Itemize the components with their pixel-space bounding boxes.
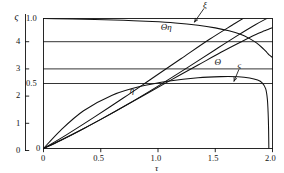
curves-layer <box>44 4 273 148</box>
curve-Θ <box>44 28 273 149</box>
x-axis-ticklabel: 1.5 <box>208 154 219 163</box>
chart-canvas <box>0 0 284 173</box>
inner-axis-ticklabel: 1.0 <box>26 14 37 23</box>
inner-axis-ticklabel: 0 <box>36 144 40 153</box>
left-axis-symbol: ς <box>15 13 19 23</box>
chart-figure: 01234ς00.51.000.51.01.52.0τΘηξΘςη <box>0 0 284 173</box>
x-axis-ticklabel: 1.0 <box>151 154 162 163</box>
x-axis-label: τ <box>155 164 158 173</box>
curve-label-η: η <box>130 86 134 95</box>
curve-label-Θ: Θ <box>215 58 222 67</box>
curve-label-ς: ς <box>237 61 241 70</box>
inner-axis-ticklabel: 0.5 <box>26 79 37 88</box>
curve-label-Θη: Θη <box>161 23 172 32</box>
left-axis-ticklabel: 1 <box>16 119 20 128</box>
curve-Θη <box>44 19 273 58</box>
left-axis-ticklabel: 3 <box>16 64 20 73</box>
left-axis-ticklabel: 0 <box>16 146 20 155</box>
left-axis-ticklabel: 4 <box>16 37 20 46</box>
x-axis-ticklabel: 0 <box>41 154 45 163</box>
x-axis-ticklabel: 2.0 <box>265 154 276 163</box>
curve-η <box>44 16 273 149</box>
leader-line-ξ <box>195 9 204 22</box>
curve-label-ξ: ξ <box>203 1 207 10</box>
x-axis-ticklabel: 0.5 <box>93 154 104 163</box>
left-axis-ticklabel: 2 <box>16 91 20 100</box>
